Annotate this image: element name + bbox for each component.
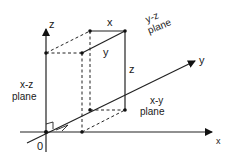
yz-plane-label: y-z plane — [142, 6, 173, 36]
coordinate-diagram: z y x 0 x y z x-z plane y-z plane x-y pl… — [0, 0, 230, 158]
x-axis-label: x — [216, 136, 221, 146]
origin-label: 0 — [37, 140, 43, 152]
right-angle-marker — [46, 122, 68, 131]
box-edges — [46, 31, 125, 132]
edge-label-y: y — [103, 46, 109, 58]
svg-text:plane: plane — [140, 106, 165, 117]
z-axis-label: z — [49, 18, 55, 30]
edge-label-x: x — [107, 16, 113, 28]
box-vertices — [44, 29, 127, 134]
y-axis — [27, 61, 195, 143]
svg-text:x-y: x-y — [150, 95, 163, 106]
svg-text:x-z: x-z — [20, 79, 33, 90]
edge-label-z: z — [129, 63, 135, 75]
svg-text:plane: plane — [12, 91, 37, 102]
origin-point — [44, 130, 48, 134]
xz-plane-label: x-z plane — [12, 79, 37, 102]
y-axis-label: y — [199, 54, 205, 66]
xy-plane-label: x-y plane — [140, 95, 165, 117]
